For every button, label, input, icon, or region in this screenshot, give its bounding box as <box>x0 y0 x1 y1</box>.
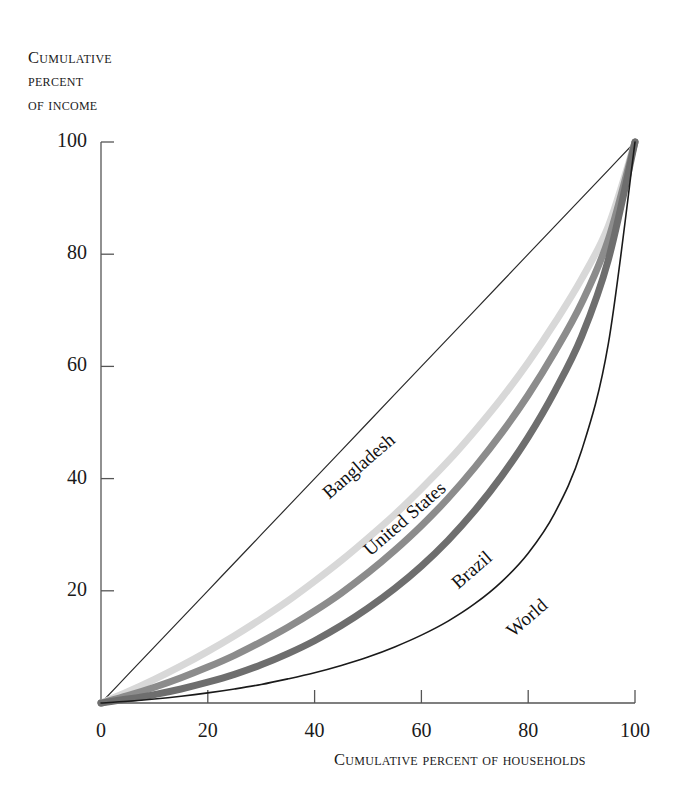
y-tick-label-60: 60 <box>29 353 87 376</box>
x-tick-label-80: 80 <box>498 719 558 742</box>
x-tick-label-20: 20 <box>178 719 238 742</box>
y-tick-label-100: 100 <box>29 129 87 152</box>
y-tick-label-80: 80 <box>29 241 87 264</box>
curve-group <box>101 142 635 703</box>
x-tick-label-60: 60 <box>391 719 451 742</box>
y-tick-label-20: 20 <box>29 578 87 601</box>
lorenz-curve-chart: Cumulative percent of income Cumulative … <box>0 0 690 789</box>
x-tick-label-100: 100 <box>605 719 665 742</box>
curve-line-of-equality <box>101 142 635 703</box>
x-tick-label-40: 40 <box>285 719 345 742</box>
x-tick-label-0: 0 <box>71 719 131 742</box>
y-tick-label-40: 40 <box>29 466 87 489</box>
plot-area <box>0 0 690 789</box>
